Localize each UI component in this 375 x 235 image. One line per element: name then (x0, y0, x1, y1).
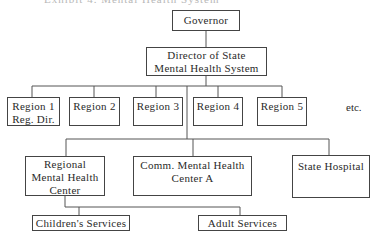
governor-label: Governor (173, 14, 239, 27)
more-regions-label: etc. (346, 101, 362, 113)
regional-mhc-label-line-2: Mental Health (26, 171, 104, 184)
adult-services-label: Adult Services (199, 217, 286, 230)
cmhc-a-box: Comm. Mental Health Center A (133, 156, 252, 196)
regional-mhc-label-line-3: Center (26, 184, 104, 197)
governor-box: Governor (172, 10, 240, 31)
region-2-box: Region 2 (69, 97, 120, 126)
adult-services-box: Adult Services (198, 215, 287, 231)
regional-mhc-box: Regional Mental Health Center (25, 156, 105, 196)
childrens-services-box: Children's Services (32, 215, 130, 231)
region-3-box: Region 3 (133, 97, 183, 126)
state-hospital-box: State Hospital (292, 155, 370, 198)
director-label-line-1: Director of State (147, 49, 266, 62)
region-1-label: Region 1 (8, 100, 59, 113)
state-hospital-label: State Hospital (293, 160, 369, 173)
region-4-box: Region 4 (193, 97, 243, 126)
region-5-label: Region 5 (258, 100, 306, 113)
cmhc-a-label-line-1: Comm. Mental Health (134, 159, 251, 172)
region-1-director-label: Reg. Dir. (8, 113, 59, 126)
director-label-line-2: Mental Health System (147, 62, 266, 75)
region-3-label: Region 3 (134, 100, 182, 113)
region-2-label: Region 2 (70, 100, 119, 113)
region-1-box: Region 1 Reg. Dir. (7, 97, 60, 126)
childrens-services-label: Children's Services (33, 217, 129, 230)
region-5-box: Region 5 (257, 97, 307, 126)
cmhc-a-label-line-2: Center A (134, 172, 251, 185)
region-4-label: Region 4 (194, 100, 242, 113)
regional-mhc-label-line-1: Regional (26, 158, 104, 171)
director-box: Director of State Mental Health System (146, 47, 267, 76)
